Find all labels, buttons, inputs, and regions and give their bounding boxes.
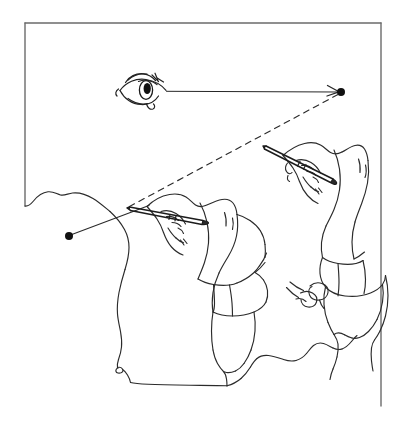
background [0, 0, 416, 435]
illustration-canvas: Perspective sighting illustration Pen-an… [0, 0, 416, 435]
line-art-drawing [0, 0, 416, 435]
station-point-dot [65, 232, 73, 240]
